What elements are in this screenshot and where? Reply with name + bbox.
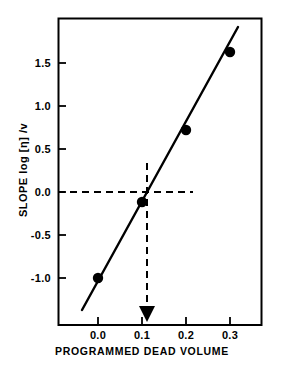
data-point (181, 125, 191, 135)
figure-container: 1.5 1.0 0.5 0.0 -0.5 -1.0 0.0 0.1 0.2 0.… (0, 0, 284, 366)
y-axis-title: SLOPE log [η] /v (17, 70, 29, 270)
y-tick-label-6: -1.0 (8, 272, 51, 284)
x-axis-title: PROGRAMMED DEAD VOLUME (0, 345, 284, 357)
x-tick-label-3: 0.2 (178, 329, 194, 341)
x-tick-label-4: 0.3 (222, 329, 238, 341)
y-tick-label-3: 0.5 (8, 143, 51, 155)
plot-frame (59, 19, 262, 326)
data-point (225, 47, 235, 57)
y-tick-label-2: 1.0 (8, 100, 51, 112)
y-tick-label-5: -0.5 (8, 229, 51, 241)
y-tick-label-4: 0.0 (8, 186, 51, 198)
fitted-trend-line (82, 27, 238, 310)
y-axis-ticks (59, 63, 67, 278)
x-tick-label-1: 0.0 (90, 329, 106, 341)
y-tick-label-1: 1.5 (8, 57, 51, 69)
data-point (93, 273, 103, 283)
data-points (93, 47, 235, 283)
x-tick-label-2: 0.1 (134, 329, 150, 341)
x-axis-ticks (98, 317, 230, 325)
chart-canvas (0, 0, 284, 366)
data-point (137, 197, 147, 207)
